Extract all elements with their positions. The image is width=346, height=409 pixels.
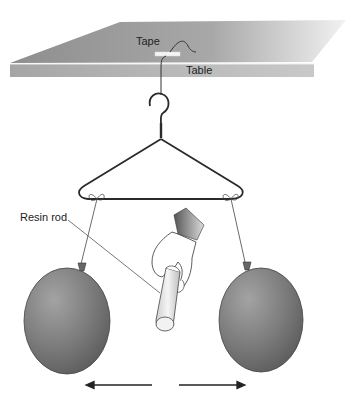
- resin-rod-label: Resin rod: [20, 211, 67, 223]
- right-arrow: [179, 382, 245, 389]
- right-balloon-string: [231, 199, 245, 262]
- table: [10, 20, 346, 77]
- right-balloon: [219, 262, 303, 372]
- left-balloon-string: [81, 199, 97, 264]
- tape-label: Tape: [136, 35, 160, 47]
- left-balloon: [24, 263, 110, 374]
- table-label: Table: [186, 64, 212, 76]
- hanger: [79, 94, 243, 200]
- left-arrow: [86, 382, 152, 389]
- diagram-canvas: [0, 0, 346, 409]
- tape: [155, 52, 180, 56]
